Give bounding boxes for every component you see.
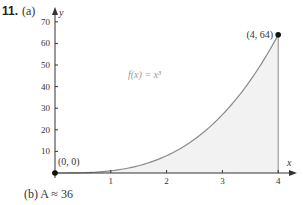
y-tick-label: 30	[41, 103, 51, 113]
part-b-answer: (b) A ≈ 36	[24, 187, 73, 202]
y-axis-label: y	[58, 7, 64, 18]
y-tick-label: 70	[41, 17, 51, 27]
point-label-origin: (0, 0)	[58, 156, 80, 168]
function-label: f(x) = x³	[128, 69, 162, 81]
x-tick-label: 3	[220, 176, 225, 186]
x-axis-label: x	[286, 157, 292, 168]
chart: xy123410203040506070f(x) = x³(0, 0)(4, 6…	[0, 0, 303, 205]
point-marker	[52, 170, 58, 176]
x-tick-label: 4	[276, 176, 281, 186]
y-tick-label: 60	[41, 38, 51, 48]
shaded-area	[55, 35, 278, 173]
point-label-end: (4, 64)	[247, 29, 274, 41]
y-tick-label: 50	[41, 60, 51, 70]
y-tick-label: 20	[41, 125, 51, 135]
y-tick-label: 10	[41, 146, 51, 156]
x-tick-label: 1	[109, 176, 114, 186]
point-marker	[275, 32, 281, 38]
x-axis-arrow-icon	[289, 170, 297, 176]
y-tick-label: 40	[41, 82, 51, 92]
x-tick-label: 2	[164, 176, 169, 186]
y-axis-arrow-icon	[52, 7, 58, 15]
